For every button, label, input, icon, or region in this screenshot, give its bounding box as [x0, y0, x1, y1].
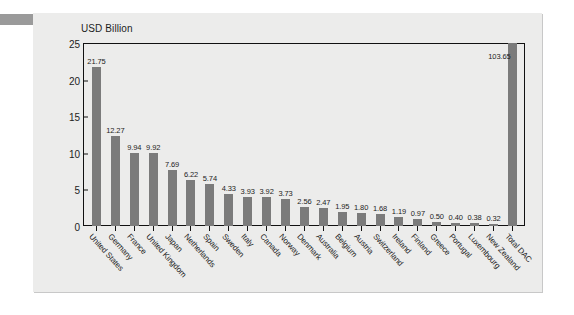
x-tick-slot [408, 226, 427, 231]
bar-value-label: 0.32 [486, 214, 500, 223]
x-tick-mark [285, 226, 286, 231]
bar-slot: 0.97 [408, 43, 427, 226]
bar: 1.95 [338, 212, 347, 226]
bar: 6.22 [186, 180, 195, 226]
x-tick-mark [512, 226, 513, 231]
x-axis-ticks [84, 226, 525, 231]
bar: 0.97 [413, 219, 422, 226]
x-tick-slot [427, 226, 446, 231]
x-tick-slot [295, 226, 314, 231]
x-tick-slot [314, 226, 333, 231]
bar: 1.80 [357, 213, 366, 226]
bar-slot: 3.93 [238, 43, 257, 226]
bar-value-label: 4.33 [222, 184, 236, 193]
x-tick-slot [446, 226, 465, 231]
y-tick-label: 20 [69, 75, 80, 86]
bar-value-label: 2.56 [297, 197, 311, 206]
x-label-slot: Greece [427, 232, 446, 302]
y-tick-label: 25 [69, 39, 80, 50]
x-tick-slot [465, 226, 484, 231]
bar: 9.94 [130, 153, 139, 226]
x-tick-slot [333, 226, 352, 231]
bar-slot: 21.75 [87, 43, 106, 226]
x-tick-mark [115, 226, 116, 231]
x-tick-mark [304, 226, 305, 231]
bar-slot: 1.19 [390, 43, 409, 226]
bar-value-label: 9.92 [146, 143, 160, 152]
bar-slot: 4.33 [219, 43, 238, 226]
bar-value-label: 0.40 [449, 213, 463, 222]
bar-slot: 7.69 [163, 43, 182, 226]
x-tick-mark [474, 226, 475, 231]
chart-panel: USD Billion 0510152025 21.7512.279.949.9… [33, 13, 542, 292]
bar-value-label: 1.80 [354, 203, 368, 212]
x-tick-mark [134, 226, 135, 231]
x-axis-category-label: Total DAC [504, 232, 534, 264]
bar: 2.56 [300, 207, 309, 226]
x-label-slot: United Kingdom [144, 232, 163, 302]
bar: 9.92 [149, 153, 158, 226]
x-axis-category-label: Spain [201, 232, 221, 253]
bar: 1.19 [394, 217, 403, 226]
x-tick-mark [153, 226, 154, 231]
x-label-slot: Norway [276, 232, 295, 302]
bar: 2.47 [319, 208, 328, 226]
bar-value-label: 6.22 [184, 170, 198, 179]
x-tick-slot [87, 226, 106, 231]
bar-value-label: 0.97 [411, 209, 425, 218]
bar: 3.92 [262, 197, 271, 226]
y-tick-label: 5 [74, 185, 80, 196]
x-tick-slot [352, 226, 371, 231]
bar-slot: 1.80 [352, 43, 371, 226]
x-tick-mark [380, 226, 381, 231]
bar: 3.93 [243, 197, 252, 226]
bar-slot: 3.73 [276, 43, 295, 226]
x-tick-mark [266, 226, 267, 231]
x-label-slot: Australia [314, 232, 333, 302]
y-axis-title: USD Billion [81, 23, 133, 34]
bar-value-label: 103.65 [488, 52, 510, 61]
x-tick-slot [503, 226, 522, 231]
x-label-slot: Sweden [219, 232, 238, 302]
bar-slot: 12.27 [106, 43, 125, 226]
x-tick-mark [361, 226, 362, 231]
x-tick-mark [209, 226, 210, 231]
x-tick-mark [455, 226, 456, 231]
bar-slot: 6.22 [182, 43, 201, 226]
x-tick-slot [257, 226, 276, 231]
x-axis-category-label: Italy [239, 232, 255, 249]
x-label-slot: Denmark [295, 232, 314, 302]
x-tick-slot [276, 226, 295, 231]
x-label-slot: Finland [408, 232, 427, 302]
corner-marker [0, 14, 34, 25]
x-label-slot: Japan [163, 232, 182, 302]
bar-slot: 1.68 [371, 43, 390, 226]
bar-slot: 9.92 [144, 43, 163, 226]
x-tick-mark [228, 226, 229, 231]
bar-value-label: 0.50 [430, 212, 444, 221]
x-tick-slot [125, 226, 144, 231]
bars-layer: 21.7512.279.949.927.696.225.744.333.933.… [84, 43, 525, 226]
bar: 7.69 [168, 170, 177, 226]
bar-slot: 9.94 [125, 43, 144, 226]
x-tick-mark [436, 226, 437, 231]
bar: 12.27 [111, 136, 120, 226]
x-tick-mark [96, 226, 97, 231]
y-tick-label: 10 [69, 148, 80, 159]
bar: 3.73 [281, 199, 290, 226]
x-tick-mark [398, 226, 399, 231]
bar-value-label: 3.92 [260, 187, 274, 196]
x-label-slot: Total DAC [503, 232, 522, 302]
x-label-slot: Canada [257, 232, 276, 302]
bar-value-label: 1.95 [335, 202, 349, 211]
bar-value-label: 3.73 [278, 189, 292, 198]
x-tick-mark [493, 226, 494, 231]
y-tick-label: 15 [69, 112, 80, 123]
bar: 4.33 [224, 194, 233, 226]
bar-value-label: 12.27 [106, 126, 124, 135]
x-tick-slot [182, 226, 201, 231]
bar-value-label: 21.75 [87, 57, 105, 66]
x-tick-slot [390, 226, 409, 231]
bar-slot: 0.40 [446, 43, 465, 226]
x-label-slot: Switzerland [371, 232, 390, 302]
